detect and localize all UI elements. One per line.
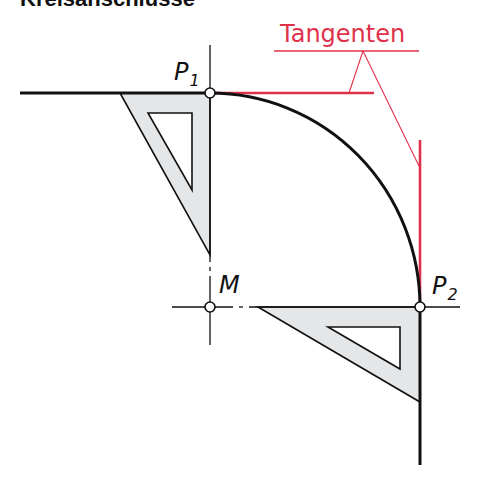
construction-drawing: P1 M P2 Tangenten xyxy=(0,0,489,483)
label-p1: P1 xyxy=(174,58,200,90)
leader-to-vertical-tangent xyxy=(363,51,419,166)
point-p1-marker xyxy=(205,88,215,98)
point-p2-marker xyxy=(415,302,425,312)
set-square-bottom xyxy=(258,307,420,402)
point-m-marker xyxy=(205,302,215,312)
label-p2: P2 xyxy=(432,272,458,304)
leader-to-horizontal-tangent xyxy=(349,51,363,93)
set-square-left xyxy=(120,93,210,255)
label-m: M xyxy=(219,271,240,299)
label-tangents: Tangenten xyxy=(279,20,405,48)
arc-connection xyxy=(210,93,420,307)
